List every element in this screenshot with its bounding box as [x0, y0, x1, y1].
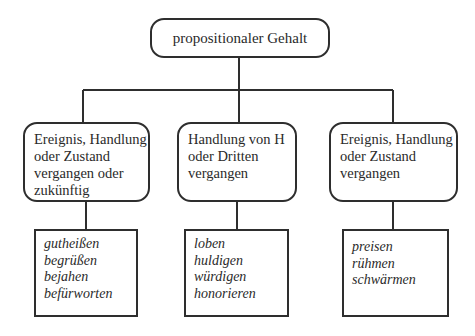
verb-item: huldigen [194, 253, 287, 270]
root-node: propositionaler Gehalt [150, 18, 330, 58]
verb-item: honorieren [194, 286, 287, 303]
category-line: oder Zustand [34, 148, 148, 165]
verb-list-left: gutheißen begrüßen bejahen befürworten [34, 229, 138, 317]
verb-item: begrüßen [44, 253, 136, 270]
tree-diagram: propositionaler Gehalt Ereignis, Handlun… [0, 0, 475, 336]
category-line: Handlung von H [188, 131, 295, 148]
verb-item: würdigen [194, 269, 287, 286]
verb-item: bejahen [44, 269, 136, 286]
category-node-right: Ereignis, Handlung oder Zustand vergange… [329, 122, 458, 202]
category-line: vergangen oder [34, 165, 148, 182]
verb-item: gutheißen [44, 236, 136, 253]
category-node-center: Handlung von H oder Dritten vergangen [177, 122, 297, 202]
category-line: zukünftig [34, 182, 148, 199]
verb-list-right: preisen rühmen schwärmen [342, 229, 449, 317]
verb-item: schwärmen [352, 272, 447, 289]
verb-item: rühmen [352, 256, 447, 273]
category-line: oder Zustand [340, 148, 456, 165]
root-label: propositionaler Gehalt [173, 30, 308, 47]
verb-item: loben [194, 236, 287, 253]
category-line: vergangen [188, 165, 295, 182]
category-line: Ereignis, Handlung [34, 131, 148, 148]
category-node-left: Ereignis, Handlung oder Zustand vergange… [23, 122, 150, 202]
category-line: oder Dritten [188, 148, 295, 165]
verb-item: befürworten [44, 286, 136, 303]
verb-list-center: loben huldigen würdigen honorieren [184, 229, 289, 317]
verb-item: preisen [352, 239, 447, 256]
category-line: vergangen [340, 165, 456, 182]
category-line: Ereignis, Handlung [340, 131, 456, 148]
